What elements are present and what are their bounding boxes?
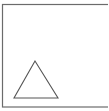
diagram-svg — [0, 0, 108, 111]
triangle-shape — [14, 61, 58, 98]
diagram-canvas — [0, 0, 108, 111]
frame-rectangle — [3, 5, 109, 108]
